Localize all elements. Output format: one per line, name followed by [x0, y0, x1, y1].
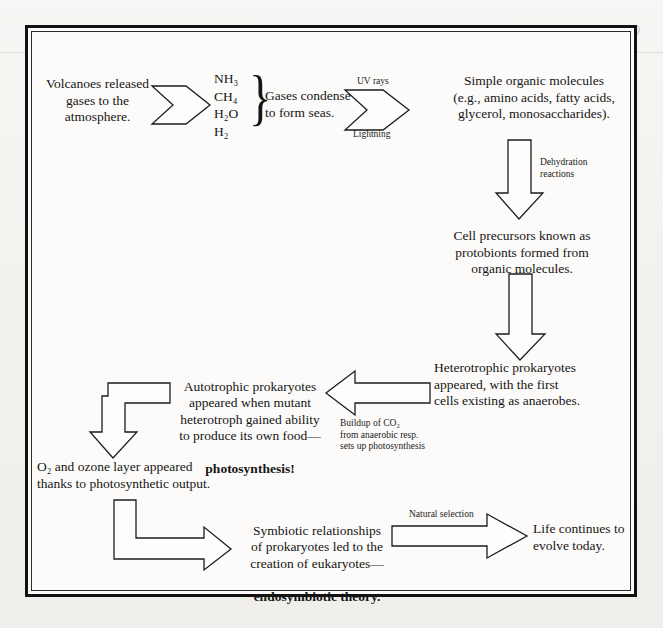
arrow-ozone-to-symbiosis — [114, 500, 231, 570]
arrow-organic-to-protobionts — [496, 140, 543, 219]
label-dehydration-reactions: Dehydration reactions — [540, 157, 620, 180]
gas-item-h2: H₂ — [214, 123, 254, 141]
arrow-protobionts-to-heterotrophs — [496, 274, 545, 360]
arrow-heterotrophs-to-autotrophs — [326, 371, 430, 415]
gas-item-h2o: H₂O — [214, 105, 254, 123]
node-volcanoes: Volcanoes released gases to the atmosphe… — [40, 76, 155, 126]
node-heterotrophs: Heterotrophic prokaryotes appeared, with… — [434, 360, 634, 410]
gas-item-nh3: NH₃ — [214, 70, 254, 88]
arrow-autotrophs-to-ozone — [90, 383, 170, 458]
label-lightning: Lightning — [353, 129, 423, 141]
gas-list: NH₃ CH₄ H₂O H₂ — [214, 70, 254, 140]
label-natural-selection: Natural selection — [409, 509, 519, 521]
node-life-today: Life continues to evolve today. — [533, 521, 653, 554]
node-symbiosis: Symbiotic relationships of prokaryotes l… — [238, 506, 396, 605]
gas-item-ch4: CH₄ — [214, 88, 254, 106]
node-ozone: O₂ and ozone layer appeared thanks to ph… — [37, 459, 247, 492]
node-symbiosis-body: Symbiotic relationships of prokaryotes l… — [250, 523, 383, 571]
arrow-symbiosis-to-life — [392, 514, 527, 558]
node-gases-condense: Gases condense to form seas. — [265, 88, 375, 121]
node-autotrophs-body: Autotrophic prokaryotes appeared when mu… — [179, 379, 321, 444]
label-co2-buildup: Buildup of CO₂ from anaerobic resp. sets… — [340, 418, 450, 453]
node-symbiosis-emphasis: endosymbiotic theory. — [254, 589, 381, 604]
label-uv-rays: UV rays — [357, 76, 417, 88]
arrow-volcanoes-to-gases — [152, 86, 210, 124]
node-simple-organic: Simple organic molecules (e.g., amino ac… — [428, 73, 640, 123]
node-protobionts: Cell precursors known as protobionts for… — [432, 228, 612, 278]
